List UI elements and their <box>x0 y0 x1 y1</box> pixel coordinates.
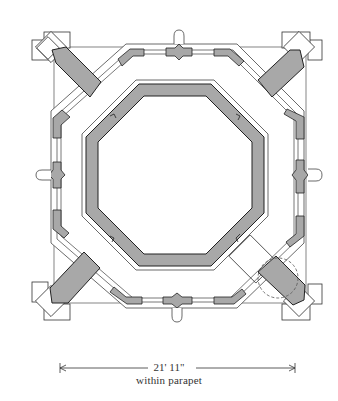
dimension-value: 21' 11" <box>0 361 338 373</box>
projection-left <box>36 170 51 180</box>
projection-right <box>308 169 322 181</box>
floor-plan <box>0 0 338 401</box>
projection-top <box>174 30 184 44</box>
dimension-note: within parapet <box>0 374 338 386</box>
projection-bottom <box>172 308 182 322</box>
corner-tower-bottom-left <box>32 252 100 320</box>
inner-octagon-void <box>98 96 252 254</box>
corner-tower-top-left <box>32 31 101 97</box>
corner-tower-top-right <box>258 31 322 97</box>
